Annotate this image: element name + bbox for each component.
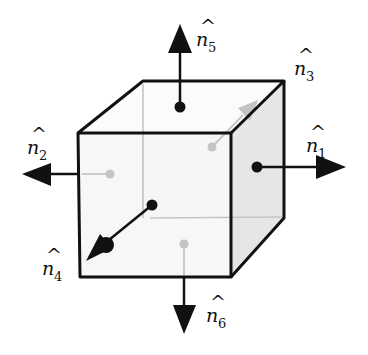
svg-text:^: ^ xyxy=(310,121,326,143)
hidden-edge-horizontal xyxy=(150,217,282,218)
label-n5: n ^ 5 xyxy=(196,15,216,55)
label-n2: n ^ 2 xyxy=(27,123,47,163)
label-n4: n ^ 4 xyxy=(42,244,62,284)
svg-text:^: ^ xyxy=(31,123,47,145)
normal-n2 xyxy=(22,163,78,186)
svg-text:^: ^ xyxy=(200,15,216,37)
label-n1: n ^ 1 xyxy=(306,121,326,161)
svg-text:1: 1 xyxy=(318,146,326,161)
label-n3: n ^ 3 xyxy=(294,44,314,84)
svg-text:4: 4 xyxy=(54,269,62,284)
svg-text:2: 2 xyxy=(39,148,47,163)
svg-text:^: ^ xyxy=(210,291,226,313)
svg-text:3: 3 xyxy=(306,69,314,84)
normal-n6 xyxy=(173,277,196,334)
svg-text:^: ^ xyxy=(46,244,62,266)
svg-text:^: ^ xyxy=(298,44,314,66)
cube-normals-diagram: n ^ 5 n ^ 3 n ^ 1 n ^ 2 n ^ 4 n ^ 6 xyxy=(0,0,368,355)
svg-text:5: 5 xyxy=(208,40,216,55)
svg-text:6: 6 xyxy=(218,316,226,331)
label-n6: n ^ 6 xyxy=(206,291,226,331)
